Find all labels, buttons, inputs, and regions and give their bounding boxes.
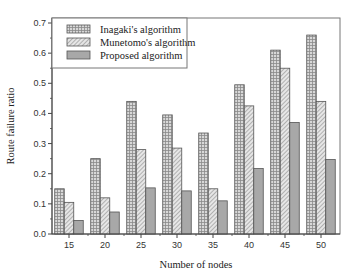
x-tick-label: 45 [280, 240, 290, 250]
y-tick-label: 0.4 [33, 108, 46, 118]
bar-grid-40 [235, 85, 245, 234]
bar-hatch-25 [136, 150, 146, 234]
bar-hatch-30 [172, 148, 182, 234]
bar-solid-50 [326, 160, 336, 234]
bar-hatch-35 [208, 189, 218, 234]
y-tick-label: 0.7 [33, 18, 46, 28]
x-tick-label: 40 [244, 240, 254, 250]
x-tick-label: 25 [136, 240, 146, 250]
bar-solid-35 [218, 201, 228, 234]
bar-hatch-40 [244, 106, 254, 234]
bar-grid-15 [55, 189, 65, 234]
bar-grid-50 [307, 35, 317, 234]
y-tick-label: 0.5 [33, 78, 46, 88]
y-tick-label: 0.0 [33, 229, 46, 239]
x-tick-label: 30 [172, 240, 182, 250]
legend-label: Munetomo's algorithm [100, 37, 196, 48]
bar-hatch-15 [64, 202, 74, 234]
bar-solid-30 [182, 191, 192, 234]
legend: Inagaki's algorithmMunetomo's algorithmP… [52, 18, 196, 68]
bar-solid-20 [110, 212, 120, 234]
x-tick-label: 15 [64, 240, 74, 250]
bar-solid-25 [146, 188, 156, 234]
bar-solid-40 [254, 169, 264, 234]
legend-label: Proposed algorithm [100, 50, 183, 61]
legend-label: Inagaki's algorithm [100, 24, 181, 35]
x-tick-label: 20 [100, 240, 110, 250]
bar-hatch-50 [316, 101, 326, 234]
x-tick-label: 50 [316, 240, 326, 250]
bar-grid-35 [199, 133, 209, 234]
y-tick-label: 0.6 [33, 48, 46, 58]
bar-hatch-20 [100, 198, 110, 234]
bar-solid-45 [290, 122, 300, 234]
bar-grid-25 [127, 101, 137, 234]
bar-grid-30 [163, 115, 173, 234]
bar-solid-15 [74, 220, 84, 234]
x-tick-label: 35 [208, 240, 218, 250]
bar-grid-20 [91, 159, 101, 234]
y-axis: 0.00.10.20.30.40.50.60.7 [33, 18, 52, 239]
legend-swatch-hatch [67, 38, 90, 46]
legend-swatch-grid [67, 25, 90, 33]
y-tick-label: 0.1 [33, 199, 46, 209]
x-axis: 1520253035404550 [52, 234, 340, 250]
y-axis-title: Route failure ratio [5, 88, 16, 165]
legend-swatch-solid [67, 51, 90, 59]
bar-grid-45 [271, 50, 281, 234]
bar-hatch-45 [280, 68, 290, 234]
y-tick-label: 0.2 [33, 169, 46, 179]
x-axis-title: Number of nodes [160, 259, 233, 270]
y-tick-label: 0.3 [33, 139, 46, 149]
bar-chart: 0.00.10.20.30.40.50.60.7 152025303540455… [0, 0, 353, 278]
